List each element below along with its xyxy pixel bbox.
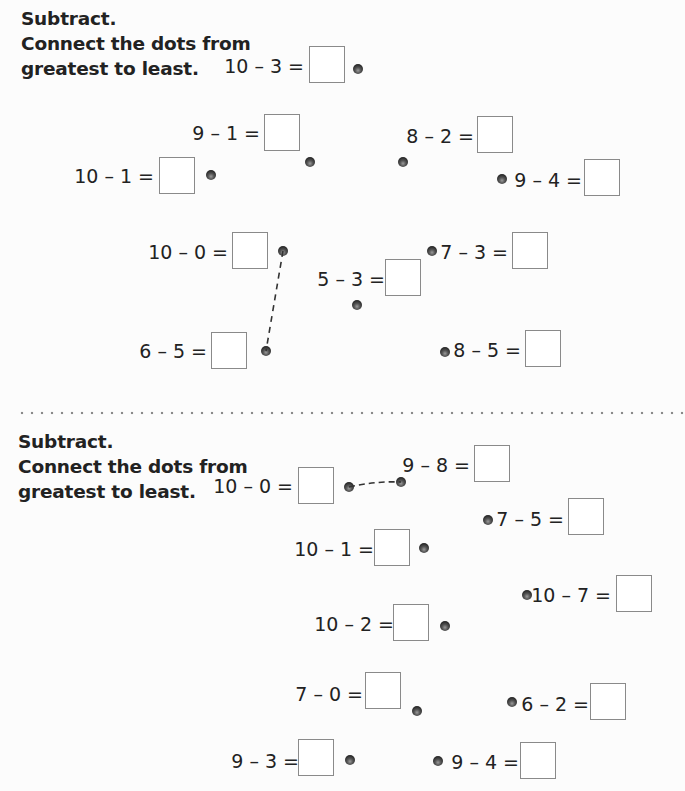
problem-label: 10 – 0 =: [148, 241, 228, 263]
problem-label: 8 – 2 =: [406, 125, 474, 147]
instruction-line-2: Connect the dots from: [21, 31, 251, 56]
answer-box[interactable]: [298, 467, 334, 504]
problem-label: 5 – 3 =: [317, 268, 385, 290]
dashed-connector-section-1: [266, 251, 283, 351]
connect-dot[interactable]: [433, 756, 443, 766]
answer-box[interactable]: [298, 739, 334, 776]
instruction-line-1: Subtract.: [18, 429, 248, 454]
problem-label: 9 – 8 =: [402, 454, 470, 476]
instruction-line-3: greatest to least.: [21, 56, 251, 81]
problem-label: 8 – 5 =: [453, 339, 521, 361]
section-1-instructions: Subtract. Connect the dots from greatest…: [21, 6, 251, 81]
connect-dot[interactable]: [483, 515, 493, 525]
problem-label: 10 – 2 =: [314, 613, 394, 635]
problem-label: 9 – 4 =: [451, 751, 519, 773]
answer-box[interactable]: [474, 445, 510, 482]
problem-label: 10 – 1 =: [74, 165, 154, 187]
connect-dot[interactable]: [278, 246, 288, 256]
answer-box[interactable]: [477, 116, 513, 153]
connect-dot[interactable]: [345, 755, 355, 765]
dashed-connector-section-2: [349, 482, 401, 487]
problem-label: 10 – 3 =: [224, 55, 304, 77]
connect-dot[interactable]: [352, 300, 362, 310]
connect-dot[interactable]: [522, 590, 532, 600]
answer-box[interactable]: [374, 529, 410, 566]
example-connection-lines: [0, 0, 685, 791]
answer-box[interactable]: [616, 575, 652, 612]
answer-box[interactable]: [309, 46, 345, 83]
connect-dot[interactable]: [497, 174, 507, 184]
answer-box[interactable]: [159, 157, 195, 194]
connect-dot[interactable]: [396, 477, 406, 487]
answer-box[interactable]: [232, 232, 268, 269]
problem-label: 9 – 1 =: [192, 122, 260, 144]
answer-box[interactable]: [512, 232, 548, 269]
answer-box[interactable]: [584, 159, 620, 196]
problem-label: 9 – 3 =: [231, 750, 299, 772]
connect-dot[interactable]: [261, 346, 271, 356]
connect-dot[interactable]: [344, 482, 354, 492]
connect-dot[interactable]: [507, 697, 517, 707]
answer-box[interactable]: [393, 604, 429, 641]
answer-box[interactable]: [568, 498, 604, 535]
instruction-line-1: Subtract.: [21, 6, 251, 31]
answer-box[interactable]: [264, 114, 300, 151]
problem-label: 10 – 0 =: [213, 475, 293, 497]
connect-dot[interactable]: [206, 170, 216, 180]
connect-dot[interactable]: [305, 157, 315, 167]
connect-dot[interactable]: [440, 621, 450, 631]
problem-label: 7 – 5 =: [496, 508, 564, 530]
problem-label: 10 – 1 =: [294, 538, 374, 560]
problem-label: 9 – 4 =: [514, 169, 582, 191]
connect-dot[interactable]: [427, 246, 437, 256]
problem-label: 6 – 5 =: [139, 340, 207, 362]
problem-label: 10 – 7 =: [531, 584, 611, 606]
connect-dot[interactable]: [412, 706, 422, 716]
answer-box[interactable]: [385, 259, 421, 296]
section-divider: [17, 411, 685, 415]
answer-box[interactable]: [525, 330, 561, 367]
connect-dot[interactable]: [353, 64, 363, 74]
connect-dot[interactable]: [440, 347, 450, 357]
answer-box[interactable]: [520, 742, 556, 779]
answer-box[interactable]: [365, 672, 401, 709]
problem-label: 6 – 2 =: [521, 693, 589, 715]
connect-dot[interactable]: [419, 543, 429, 553]
problem-label: 7 – 3 =: [440, 241, 508, 263]
problem-label: 7 – 0 =: [295, 683, 363, 705]
connect-dot[interactable]: [398, 157, 408, 167]
answer-box[interactable]: [590, 683, 626, 720]
answer-box[interactable]: [211, 332, 247, 369]
